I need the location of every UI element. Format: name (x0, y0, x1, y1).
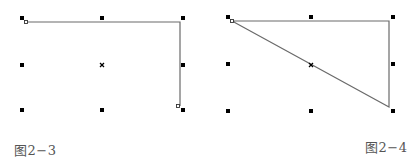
node-handle-square (177, 105, 180, 108)
node-handle-square (25, 21, 28, 24)
grid-point-square (100, 108, 104, 112)
grid-point-square (309, 109, 313, 113)
grid-point-square (181, 63, 185, 67)
figure-2-3: 图2−3 (0, 0, 206, 161)
grid-point-square (20, 16, 24, 20)
figure-caption: 图2−3 (14, 140, 56, 159)
polyline-diagram (0, 0, 206, 161)
grid-point-square (226, 109, 230, 113)
grid-point-square (20, 108, 24, 112)
center-cross-icon (100, 63, 104, 67)
grid-point-square (309, 15, 313, 19)
grid-point-square (391, 62, 395, 66)
figure-caption: 图2−4 (365, 137, 407, 156)
figure-2-4: 图2−4 (206, 0, 413, 161)
node-handle-square (231, 20, 234, 23)
grid-point-square (226, 15, 230, 19)
grid-point-square (391, 15, 395, 19)
grid-point-square (100, 16, 104, 20)
grid-point-square (181, 108, 185, 112)
grid-point-square (181, 16, 185, 20)
grid-point-square (20, 63, 24, 67)
grid-point-square (391, 109, 395, 113)
grid-point-square (226, 62, 230, 66)
